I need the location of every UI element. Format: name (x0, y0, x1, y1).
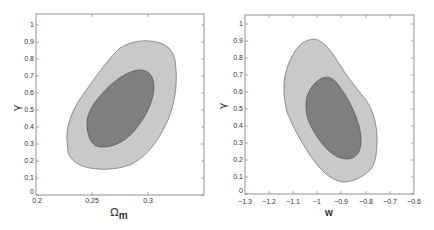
right-y-tick-labels: 0 0.1 0.2 0.3 0.4 0.5 0.6 0.7 0.8 0.9 1 (233, 20, 243, 194)
x-axis-label-main: Ω (110, 206, 118, 219)
y-tick-label: 0.5 (24, 106, 34, 113)
left-x-axis-label: Ωm (110, 206, 127, 221)
left-y-axis-label: γ (10, 104, 23, 111)
x-tick-label: −0.6 (407, 198, 421, 205)
x-axis-label-subscript: m (119, 210, 128, 221)
y-tick-label: 0.6 (24, 89, 34, 96)
y-tick-label: 0.2 (233, 156, 243, 163)
y-tick-label: 0.4 (233, 122, 243, 129)
y-tick-label: 0.8 (233, 54, 243, 61)
right-x-tick-labels: −1.3 −1.2 −1.1 −1 −0.9 −0.8 −0.7 −0.6 (238, 198, 421, 205)
figure: 0 0.1 0.2 0.3 0.4 0.5 0.6 0.7 0.8 0.9 1 … (0, 0, 434, 230)
y-tick-label: 1 (30, 21, 34, 28)
y-tick-label: 0.3 (233, 139, 243, 146)
y-tick-label: 0.6 (233, 88, 243, 95)
left-panel: 0 0.1 0.2 0.3 0.4 0.5 0.6 0.7 0.8 0.9 1 … (10, 14, 204, 221)
left-y-tick-labels: 0 0.1 0.2 0.3 0.4 0.5 0.6 0.7 0.8 0.9 1 (24, 21, 34, 195)
y-tick-label: 0.3 (24, 140, 34, 147)
y-tick-label: 0.7 (233, 71, 243, 78)
x-tick-label: −1.1 (286, 198, 300, 205)
y-tick-label: 0.8 (24, 55, 34, 62)
y-tick-label: 0.1 (233, 173, 243, 180)
y-tick-label: 0.4 (24, 123, 34, 130)
y-tick-label: 0.5 (233, 105, 243, 112)
right-y-axis-label: γ (216, 102, 229, 109)
y-tick-label: 0 (239, 187, 243, 194)
y-tick-label: 0.2 (24, 157, 34, 164)
x-tick-label: −0.8 (359, 198, 373, 205)
x-tick-label: −1.3 (238, 198, 252, 205)
x-tick-label: 0.25 (85, 197, 99, 204)
left-x-tick-labels: 0.2 0.25 0.3 (32, 197, 153, 204)
x-tick-label: −1.2 (262, 198, 276, 205)
y-tick-label: 0.9 (233, 37, 243, 44)
y-tick-label: 1 (239, 20, 243, 27)
x-tick-label: 0.3 (143, 197, 153, 204)
right-x-axis-label: w (324, 207, 333, 218)
y-tick-label: 0 (30, 188, 34, 195)
x-tick-label: −0.9 (334, 198, 348, 205)
x-tick-label: −0.7 (383, 198, 397, 205)
x-tick-label: −1 (313, 198, 321, 205)
x-tick-label: 0.2 (32, 197, 42, 204)
y-tick-label: 0.9 (24, 38, 34, 45)
y-tick-label: 0.7 (24, 72, 34, 79)
right-panel: 0 0.1 0.2 0.3 0.4 0.5 0.6 0.7 0.8 0.9 1 … (216, 15, 421, 218)
y-tick-label: 0.1 (24, 174, 34, 181)
